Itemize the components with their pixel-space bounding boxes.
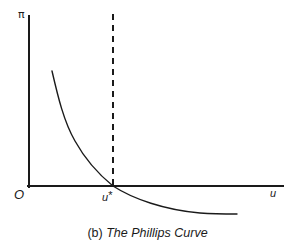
y-axis-label-pi: π [18, 9, 25, 20]
caption-index: (b) [87, 226, 102, 240]
natural-rate-star-glyph: * [108, 189, 112, 201]
figure-caption: (b) The Phillips Curve [0, 227, 295, 241]
phillips-curve-path [52, 71, 237, 214]
phillips-curve-figure: π O u* u (b) The Phillips Curve [0, 0, 295, 250]
natural-rate-label: u* [102, 190, 112, 203]
origin-label: O [14, 188, 24, 201]
caption-title: The Phillips Curve [106, 226, 207, 240]
x-axis-label-u: u [270, 188, 276, 199]
phillips-curve-plot [0, 0, 295, 250]
